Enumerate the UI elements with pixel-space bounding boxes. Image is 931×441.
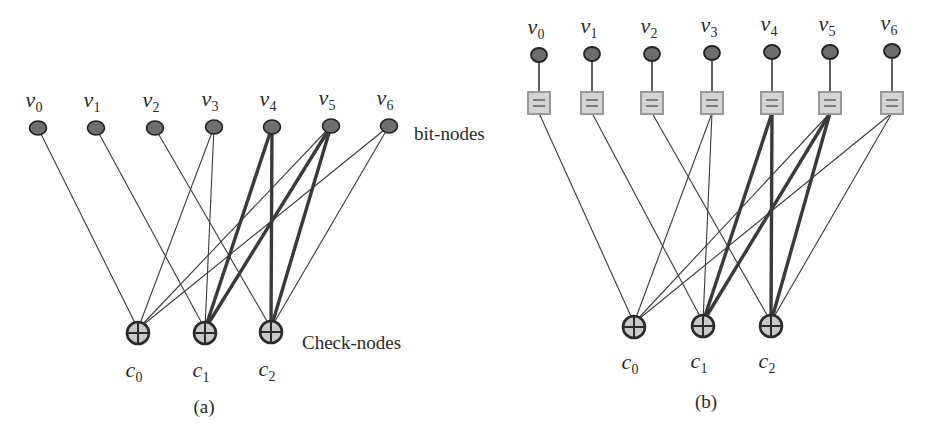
bit-node-v1 bbox=[584, 47, 600, 61]
panel-b-edges bbox=[539, 113, 892, 323]
panel-a-edges bbox=[38, 126, 389, 329]
bit-node-v5 bbox=[323, 119, 340, 133]
panel-b-caption: (b) bbox=[695, 391, 717, 413]
equality-node-v4 bbox=[761, 92, 783, 114]
bit-node-v4-label: v4 bbox=[260, 86, 277, 114]
check-node-c0-label: c0 bbox=[622, 349, 639, 377]
edge-c1-v5 bbox=[205, 126, 331, 329]
check-node-c2 bbox=[760, 315, 782, 337]
bit-node-v3-label: v3 bbox=[202, 86, 219, 114]
edge-c2-v6 bbox=[771, 113, 892, 322]
bit-node-v3 bbox=[206, 120, 223, 134]
edge-c1-v4 bbox=[205, 127, 272, 329]
bit-node-v0 bbox=[30, 121, 47, 135]
check-node-c1 bbox=[194, 322, 216, 344]
edge-c1-v1 bbox=[96, 128, 205, 329]
panel-a-caption: (a) bbox=[193, 396, 214, 418]
edge-c0-v0 bbox=[38, 128, 138, 329]
panel-b-bit-nodes: v0v1v2v3v4v5v6 bbox=[528, 10, 903, 114]
edge-c2-v4 bbox=[271, 127, 272, 328]
edge-c2-v2 bbox=[652, 113, 771, 322]
tanner-graph-figure: v0v1v2v3v4v5v6 c0c1c2 bit-nodes Check-no… bbox=[0, 0, 931, 441]
check-node-c0-label: c0 bbox=[126, 357, 143, 385]
check-node-c1-label: c1 bbox=[193, 357, 210, 385]
bit-node-v5 bbox=[822, 45, 838, 59]
bit-node-v1 bbox=[88, 121, 105, 135]
bit-node-v2-label: v2 bbox=[641, 13, 658, 41]
equality-node-v6 bbox=[881, 92, 903, 114]
bit-node-v2 bbox=[644, 47, 660, 61]
bit-node-v6-label: v6 bbox=[881, 10, 898, 38]
equality-node-v1 bbox=[581, 92, 603, 114]
bit-node-v1-label: v1 bbox=[581, 13, 598, 41]
equality-node-v5 bbox=[819, 92, 841, 114]
bit-node-v5-label: v5 bbox=[319, 85, 336, 113]
bit-node-v1-label: v1 bbox=[84, 87, 101, 115]
check-nodes-label: Check-nodes bbox=[302, 332, 401, 353]
edge-c1-v1 bbox=[592, 113, 703, 322]
bit-node-v6-label: v6 bbox=[377, 85, 394, 113]
bit-node-v2 bbox=[147, 121, 164, 135]
edge-c2-v4 bbox=[771, 113, 772, 322]
bit-node-v0-label: v0 bbox=[26, 87, 43, 115]
equality-node-v2 bbox=[641, 92, 663, 114]
bit-node-v4 bbox=[264, 120, 281, 134]
equality-node-v3 bbox=[701, 92, 723, 114]
bit-node-v4-label: v4 bbox=[761, 11, 778, 39]
bit-node-v3 bbox=[704, 46, 720, 60]
check-node-c0 bbox=[127, 322, 149, 344]
edge-c1-v5 bbox=[703, 113, 830, 322]
equality-node-v0 bbox=[528, 92, 550, 114]
panel-a-tanner-graph: v0v1v2v3v4v5v6 c0c1c2 bit-nodes Check-no… bbox=[26, 85, 485, 418]
edge-c2-v6 bbox=[271, 126, 389, 328]
bit-node-v4 bbox=[764, 45, 780, 59]
edge-c1-v4 bbox=[703, 113, 772, 322]
bit-node-v0 bbox=[531, 48, 547, 62]
edge-c0-v0 bbox=[539, 113, 634, 323]
bit-node-v3-label: v3 bbox=[701, 12, 718, 40]
check-node-c1 bbox=[692, 315, 714, 337]
panel-a-bit-nodes: v0v1v2v3v4v5v6 bbox=[26, 85, 398, 135]
check-node-c2-label: c2 bbox=[259, 356, 276, 384]
edge-c1-v3 bbox=[703, 113, 712, 322]
bit-node-v6 bbox=[884, 44, 900, 58]
bit-node-v5-label: v5 bbox=[819, 11, 836, 39]
check-node-c2 bbox=[260, 321, 282, 343]
bit-node-v2-label: v2 bbox=[143, 87, 160, 115]
bit-node-v6 bbox=[381, 119, 398, 133]
bit-nodes-label: bit-nodes bbox=[414, 123, 485, 144]
check-node-c2-label: c2 bbox=[759, 348, 776, 376]
edge-c2-v5 bbox=[271, 126, 331, 328]
check-node-c1-label: c1 bbox=[691, 348, 708, 376]
panel-a-check-nodes: c0c1c2 bbox=[126, 321, 282, 385]
panel-b-tanner-graph: v0v1v2v3v4v5v6 c0c1c2 (b) bbox=[528, 10, 903, 413]
panel-b-check-nodes: c0c1c2 bbox=[622, 315, 782, 377]
bit-node-v0-label: v0 bbox=[528, 14, 545, 42]
check-node-c0 bbox=[623, 316, 645, 338]
